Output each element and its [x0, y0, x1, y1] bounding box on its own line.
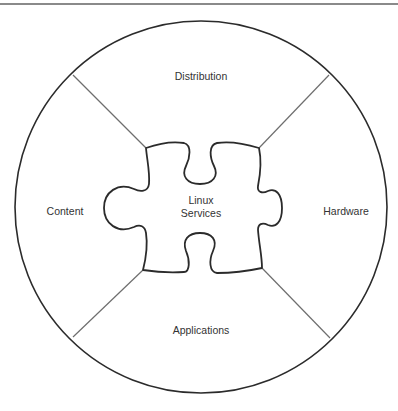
divider-bottom-right [262, 268, 330, 338]
divider-top-left [73, 75, 146, 148]
divider-bottom-left [73, 270, 143, 337]
divider-top-right [259, 75, 329, 148]
segment-label-distribution: Distribution [175, 70, 228, 83]
center-label-line1: Linux [188, 194, 213, 207]
center-label-line2: Services [181, 207, 221, 220]
segment-label-content: Content [47, 205, 84, 218]
segment-label-applications: Applications [173, 324, 230, 337]
segment-label-hardware: Hardware [323, 205, 369, 218]
